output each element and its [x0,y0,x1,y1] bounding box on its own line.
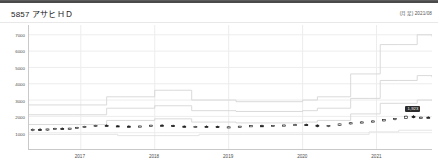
x-axis-tick-label: 2021 [371,154,381,159]
candle-body-up [53,128,56,129]
y-axis-tick-label: 6000 [0,49,25,54]
candle-body-up [138,126,141,127]
y-axis-tick-label: 3000 [0,98,25,103]
x-axis-tick-label: 2019 [223,154,233,159]
candle-body-up [194,126,197,127]
candle-body-up [349,123,352,124]
candle-body-up [46,129,49,130]
candle-body-down [260,126,263,127]
period-note: (月足) 2021/08 [400,10,432,16]
candle-body-down [61,128,64,129]
candle-body-down [216,126,219,127]
candle-body-up [238,126,241,127]
candle-body-up [249,126,252,127]
y-axis-tick-label: 7000 [0,32,25,37]
candle-body-up [382,120,385,121]
candle-body-up [405,116,408,118]
candle-body-up [94,125,97,126]
series-mid-band [29,76,432,115]
y-axis-tick-label: 5000 [0,65,25,70]
chart-panel: 1000200030004000500060007000 20172018201… [0,22,438,161]
candle-body-down [127,126,130,127]
x-axis-tick-label: 2018 [149,154,159,159]
candle-body-up [272,126,275,127]
stock-chart-widget: 5857 アサヒＨＤ (月足) 2021/08 1000200030004000… [0,0,438,161]
latest-price-label: 1,923 [405,106,420,112]
window-top-bar-highlight [0,0,438,1]
candle-body-down [412,116,415,117]
candle-body-up [227,127,230,128]
y-axis-tick-label: 1000 [0,131,25,136]
candle-body-down [39,129,42,130]
candle-body-up [371,121,374,122]
candle-body-down [205,126,208,127]
candle-body-up [338,124,341,125]
x-axis-tick-label: 2017 [75,154,85,159]
candle-body-down [116,126,119,127]
candle-body-up [283,125,286,126]
candle-body-down [316,125,319,126]
chart-header: 5857 アサヒＨＤ (月足) 2021/08 [0,3,438,22]
candle-body-down [105,125,108,126]
candle-body-down [161,125,164,126]
candle-body-down [305,125,308,126]
candle-body-down [172,126,175,127]
candle-body-up [394,118,397,119]
plot-area[interactable] [28,25,432,150]
candle-body-up [83,126,86,127]
candle-body-down [427,117,430,118]
candle-body-up [360,122,363,123]
candle-body-up [31,129,34,130]
x-axis-tick-label: 2020 [297,154,307,159]
candle-body-up [419,117,422,118]
page-title: 5857 アサヒＨＤ [11,8,73,19]
candle-body-up [294,125,297,126]
candle-body-up [150,125,153,126]
series-upper-band [29,35,432,105]
candle-body-up [327,125,330,126]
y-axis-tick-label: 4000 [0,82,25,87]
candle-body-up [68,128,71,129]
candle-body-down [183,126,186,127]
candle-body-up [76,127,79,128]
chart-canvas [29,25,432,149]
y-axis-tick-label: 2000 [0,115,25,120]
